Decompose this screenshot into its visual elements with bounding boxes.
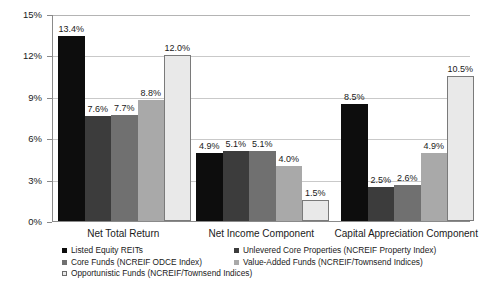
bar[interactable]	[196, 153, 223, 221]
bar[interactable]	[223, 151, 250, 221]
legend-swatch-icon	[234, 248, 239, 253]
y-axis-tick-label: 6%	[0, 134, 42, 144]
legend-item-label: Listed Equity REITs	[71, 245, 143, 257]
bar-group: 8.5%2.5%2.6%4.9%10.5%	[341, 15, 474, 221]
y-axis-tick-label: 3%	[0, 176, 42, 186]
legend-column-left: Listed Equity REITsCore Funds (NCREIF OD…	[62, 245, 252, 280]
bar-value-label: 1.5%	[298, 189, 333, 198]
legend-item[interactable]: Core Funds (NCREIF ODCE Index)	[62, 257, 252, 269]
legend-swatch-icon	[62, 260, 67, 265]
bar-value-label: 12.0%	[160, 44, 195, 53]
bar[interactable]	[138, 100, 165, 221]
bar-value-label: 8.8%	[134, 89, 169, 98]
bar[interactable]	[58, 36, 85, 221]
legend-swatch-icon	[234, 260, 239, 265]
y-axis-tick-label: 0%	[0, 217, 42, 227]
legend-swatch-icon	[62, 271, 67, 276]
legend-item[interactable]: Unlevered Core Properties (NCREIF Proper…	[234, 245, 436, 257]
bar-value-label: 4.0%	[272, 155, 307, 164]
bar[interactable]	[394, 185, 421, 221]
bar[interactable]	[302, 200, 329, 221]
y-axis: 0%3%6%9%12%15%	[0, 0, 52, 292]
legend-item-label: Opportunistic Funds (NCREIF/Townsend Ind…	[71, 268, 252, 280]
y-axis-tick-label: 15%	[0, 10, 42, 20]
bar[interactable]	[447, 76, 474, 221]
bar-group: 13.4%7.6%7.7%8.8%12.0%	[58, 15, 191, 221]
bar[interactable]	[111, 115, 138, 221]
legend-item[interactable]: Listed Equity REITs	[62, 245, 252, 257]
legend-item-label: Value-Added Funds (NCREIF/Townsend Indic…	[243, 257, 423, 269]
bar-group: 4.9%5.1%5.1%4.0%1.5%	[196, 15, 329, 221]
x-axis-category-label: Capital Appreciation Component	[316, 228, 482, 239]
bar-value-label: 2.6%	[390, 174, 425, 183]
legend-item-label: Core Funds (NCREIF ODCE Index)	[71, 257, 202, 269]
bar-value-label: 8.5%	[337, 93, 372, 102]
chart-legend: Listed Equity REITsCore Funds (NCREIF OD…	[62, 245, 472, 287]
bar[interactable]	[164, 55, 191, 221]
chart-container: 0%3%6%9%12%15% 13.4%7.6%7.7%8.8%12.0%4.9…	[0, 0, 482, 292]
bar[interactable]	[341, 104, 368, 221]
bar-value-label: 4.9%	[417, 142, 452, 151]
legend-column-right: Unlevered Core Properties (NCREIF Proper…	[234, 245, 436, 268]
bar[interactable]	[368, 187, 395, 222]
legend-item[interactable]: Opportunistic Funds (NCREIF/Townsend Ind…	[62, 268, 252, 280]
plot-area: 13.4%7.6%7.7%8.8%12.0%4.9%5.1%5.1%4.0%1.…	[52, 15, 470, 222]
legend-item[interactable]: Value-Added Funds (NCREIF/Townsend Indic…	[234, 257, 436, 269]
bar-value-label: 5.1%	[245, 140, 280, 149]
bar-value-label: 13.4%	[54, 25, 89, 34]
bar[interactable]	[85, 116, 112, 221]
legend-item-label: Unlevered Core Properties (NCREIF Proper…	[243, 245, 436, 257]
bar-value-label: 10.5%	[443, 65, 478, 74]
bar[interactable]	[421, 153, 448, 221]
legend-swatch-icon	[62, 248, 67, 253]
y-axis-tick-mark	[47, 222, 52, 223]
y-axis-tick-label: 12%	[0, 51, 42, 61]
bar-value-label: 7.7%	[107, 104, 142, 113]
y-axis-tick-label: 9%	[0, 93, 42, 103]
